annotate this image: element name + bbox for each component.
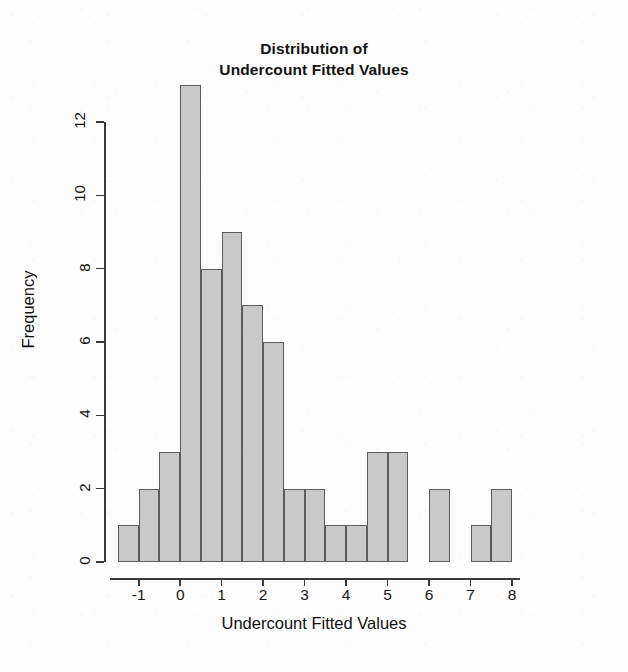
y-axis-tick-label: 2 bbox=[0, 479, 88, 496]
y-axis-tick bbox=[96, 195, 104, 197]
histogram-bar bbox=[367, 452, 388, 562]
histogram-bar bbox=[201, 269, 222, 562]
x-axis-tick bbox=[262, 578, 264, 586]
histogram-bar bbox=[325, 525, 346, 562]
plot-area bbox=[118, 88, 512, 562]
y-axis-tick bbox=[96, 121, 104, 123]
histogram-bar bbox=[222, 232, 243, 562]
x-axis-tick-label: 4 bbox=[326, 586, 366, 604]
histogram-bar bbox=[471, 525, 492, 562]
x-axis-line bbox=[110, 578, 520, 580]
x-axis-tick bbox=[387, 578, 389, 586]
y-axis-tick-label: 12 bbox=[0, 112, 88, 129]
x-axis-tick-label: 0 bbox=[160, 586, 200, 604]
x-axis-tick bbox=[345, 578, 347, 586]
histogram-bar bbox=[159, 452, 180, 562]
y-axis-tick bbox=[96, 415, 104, 417]
histogram-bar bbox=[388, 452, 409, 562]
histogram-bar bbox=[118, 525, 139, 562]
x-axis-tick bbox=[470, 578, 472, 586]
y-axis-tick-label: 6 bbox=[0, 332, 88, 349]
x-axis-tick bbox=[221, 578, 223, 586]
chart-title: Distribution of Undercount Fitted Values bbox=[0, 38, 628, 80]
x-axis-tick bbox=[179, 578, 181, 586]
x-axis-tick-label: 5 bbox=[368, 586, 408, 604]
histogram-bar bbox=[180, 85, 201, 562]
x-axis-tick-label: 7 bbox=[451, 586, 491, 604]
x-axis-tick-label: 1 bbox=[202, 586, 242, 604]
histogram-bar bbox=[139, 489, 160, 562]
y-axis-tick-label: 0 bbox=[0, 552, 88, 569]
chart-title-line-1: Distribution of bbox=[0, 38, 628, 59]
histogram-bar bbox=[242, 305, 263, 562]
x-axis-tick-label: 2 bbox=[243, 586, 283, 604]
histogram-bar bbox=[305, 489, 326, 562]
y-axis-tick bbox=[96, 488, 104, 490]
histogram-bar bbox=[346, 525, 367, 562]
x-axis-tick-label: 8 bbox=[492, 586, 532, 604]
histogram-bar bbox=[491, 489, 512, 562]
y-axis-title: Frequency bbox=[19, 220, 38, 400]
y-axis-tick-label: 8 bbox=[0, 259, 88, 276]
histogram-bar bbox=[263, 342, 284, 562]
y-axis-line bbox=[104, 122, 106, 562]
x-axis-tick bbox=[138, 578, 140, 586]
x-axis-tick bbox=[304, 578, 306, 586]
x-axis-tick bbox=[428, 578, 430, 586]
x-axis-tick-label: 3 bbox=[285, 586, 325, 604]
y-axis-tick-label: 4 bbox=[0, 405, 88, 422]
x-axis-tick bbox=[511, 578, 513, 586]
y-axis-tick-label: 10 bbox=[0, 185, 88, 202]
y-axis-tick bbox=[96, 561, 104, 563]
x-axis-tick-label: 6 bbox=[409, 586, 449, 604]
y-axis-tick bbox=[96, 341, 104, 343]
histogram-figure: Distribution of Undercount Fitted Values… bbox=[0, 0, 628, 672]
y-axis-tick bbox=[96, 268, 104, 270]
chart-title-line-2: Undercount Fitted Values bbox=[0, 59, 628, 80]
histogram-bar bbox=[429, 489, 450, 562]
histogram-bar bbox=[284, 489, 305, 562]
x-axis-tick-label: -1 bbox=[119, 586, 159, 604]
x-axis-title: Undercount Fitted Values bbox=[0, 614, 628, 633]
